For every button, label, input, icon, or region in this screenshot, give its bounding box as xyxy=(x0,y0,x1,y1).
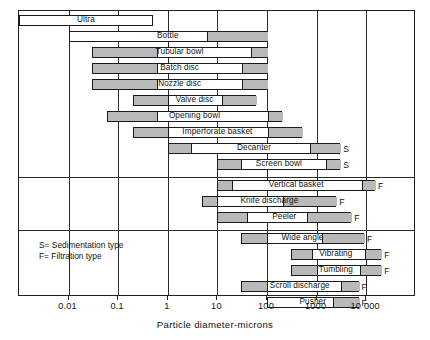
bar-label: Tumbling xyxy=(316,266,356,274)
bar-peeler: Peeler xyxy=(217,212,351,223)
bar-segment xyxy=(108,112,158,121)
x-axis-tick xyxy=(365,296,366,300)
bar-label: Bottle xyxy=(154,32,182,40)
legend-entry-s: S= Sedimentation type xyxy=(39,240,124,251)
x-axis-title: Particle diameter-microns xyxy=(0,319,430,330)
chart-root: UltraBottleTubular bowlBatch discNozzle … xyxy=(0,0,430,340)
x-axis-tick-label: 0.01 xyxy=(58,301,77,311)
bar-wide-angle: Wide angle xyxy=(241,233,364,244)
bar-segment xyxy=(326,160,341,169)
bar-imperforate-basket: Imperforate basket xyxy=(133,127,302,138)
bar-segment xyxy=(292,266,318,275)
x-axis-tick-label: 10 000 xyxy=(351,301,380,311)
bar-segment xyxy=(169,144,193,153)
group-separator xyxy=(19,177,414,178)
bar-label: Batch disc xyxy=(157,64,202,72)
bar-batch-disc: Batch disc xyxy=(92,63,267,74)
bar-valve-disc: Valve disc xyxy=(133,95,256,106)
bar-opening-bowl: Opening bowl xyxy=(107,111,282,122)
bar-tag-f: F xyxy=(362,283,367,292)
bar-segment xyxy=(322,234,365,243)
bar-label: Valve disc xyxy=(173,96,217,104)
bar-ultra: Ultra xyxy=(19,15,153,26)
bar-tag-f: F xyxy=(339,198,344,207)
bar-segment xyxy=(307,213,353,222)
bar-segment xyxy=(93,64,158,73)
bar-segment xyxy=(341,282,359,291)
chart-legend: S= Sedimentation type F= Filtration type xyxy=(39,240,124,262)
bar-label: Nozzle disc xyxy=(155,80,204,88)
bar-tag-f: F xyxy=(384,251,389,260)
x-axis-tick xyxy=(167,296,168,300)
bar-decanter: Decanter xyxy=(168,143,340,154)
bar-label: Peeler xyxy=(269,213,299,221)
bar-segment xyxy=(242,64,268,73)
bar-segment xyxy=(134,96,169,105)
bar-tag-s: S xyxy=(343,161,349,170)
bar-knife-discharge: Knife discharge xyxy=(202,196,336,207)
bar-label: Decanter xyxy=(234,144,274,152)
bar-segment xyxy=(134,128,169,137)
bar-label: Screen bowl xyxy=(253,160,305,168)
bar-bottle: Bottle xyxy=(69,31,267,42)
bar-pusher: Pusher xyxy=(267,297,359,308)
bar-label: Imperforate basket xyxy=(179,128,255,136)
legend-entry-f: F= Filtration type xyxy=(39,251,124,262)
bar-label: Vibrating xyxy=(316,250,355,258)
bar-segment xyxy=(218,181,233,190)
bar-label: Vertical basket xyxy=(266,181,327,189)
bar-segment xyxy=(207,32,268,41)
bar-segment xyxy=(362,181,376,190)
bar-segment xyxy=(203,197,218,206)
bar-segment xyxy=(218,213,248,222)
bar-segment xyxy=(310,144,341,153)
bar-segment xyxy=(268,112,283,121)
bar-tag-f: F xyxy=(384,267,389,276)
bar-segment xyxy=(242,282,268,291)
x-axis-tick-label: 0.1 xyxy=(111,301,124,311)
bar-vertical-basket: Vertical basket xyxy=(217,180,375,191)
x-axis-tick xyxy=(68,296,69,300)
x-axis-tick-label: 100 xyxy=(258,301,274,311)
x-axis-tick-label: 10 xyxy=(211,301,222,311)
bar-label: Ultra xyxy=(74,16,98,24)
bar-label: Pusher xyxy=(296,298,329,306)
bar-screen-bowl: Screen bowl xyxy=(217,159,340,170)
bar-nozzle-disc: Nozzle disc xyxy=(92,79,267,90)
bar-label: Opening bowl xyxy=(166,112,223,120)
bar-tag-f: F xyxy=(367,235,372,244)
bar-segment xyxy=(268,128,303,137)
bar-tag-f: F xyxy=(378,182,383,191)
x-axis-tick-label: 1 xyxy=(164,301,169,311)
bar-segment xyxy=(242,234,268,243)
bar-label: Tubular bowl xyxy=(153,48,207,56)
bar-label: Wide angle xyxy=(279,234,327,242)
plot-area: UltraBottleTubular bowlBatch discNozzle … xyxy=(18,10,415,296)
bar-segment xyxy=(251,48,268,57)
bar-segment xyxy=(218,160,242,169)
x-axis-tick xyxy=(117,296,118,300)
bar-scroll-discharge: Scroll discharge xyxy=(241,281,358,292)
bar-segment xyxy=(365,250,382,259)
bar-segment xyxy=(93,48,158,57)
bar-segment xyxy=(292,250,313,259)
bar-segment xyxy=(93,80,158,89)
bar-segment xyxy=(222,96,257,105)
group-separator xyxy=(19,230,414,231)
bar-label: Knife discharge xyxy=(237,197,301,205)
bar-vibrating: Vibrating xyxy=(291,249,381,260)
bar-segment xyxy=(360,266,383,275)
bar-tubular-bowl: Tubular bowl xyxy=(92,47,267,58)
bar-tag-f: F xyxy=(354,214,359,223)
x-axis-tick xyxy=(266,296,267,300)
bar-label: Scroll discharge xyxy=(267,282,333,290)
x-axis-tick xyxy=(216,296,217,300)
bar-tag-s: S xyxy=(343,145,349,154)
bar-segment xyxy=(242,80,268,89)
bar-tumbling: Tumbling xyxy=(291,265,381,276)
